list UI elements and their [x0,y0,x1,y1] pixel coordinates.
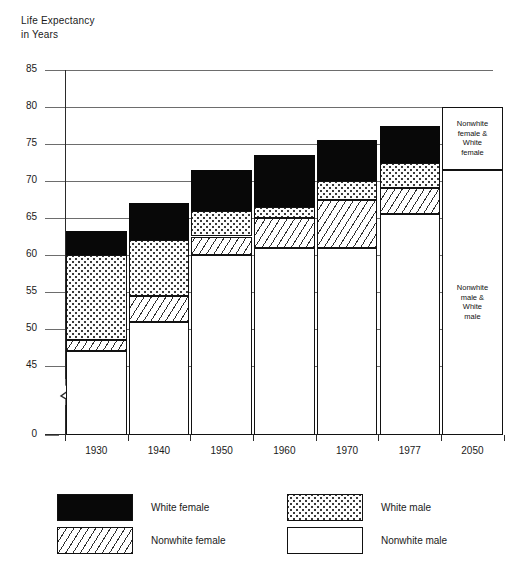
y-tick-0 [45,435,59,436]
legend-swatch-wm [287,494,363,521]
bar-segment-nonwhite-male-1950 [191,255,252,435]
x-tick-1960 [253,435,254,441]
bar-segment-nonwhite-female-1977 [380,188,441,214]
bar-segment-white-male-1970 [317,181,378,200]
y-axis-label-50: 50 [13,322,37,333]
legend-swatch-nwf [57,527,133,554]
y-axis-title: Life Expectancy in Years [21,14,95,42]
bar-2050: Nonwhite female & White femaleNonwhite m… [442,70,503,435]
y-axis-label-60: 60 [13,248,37,259]
legend-item-wm[interactable]: White male [287,494,431,521]
bar-segment-nonwhite-female-1960 [254,218,315,248]
bar-segment-label: Nonwhite female & White female [443,119,502,157]
bar-segment-white-female-1940 [129,203,190,240]
legend-label-wm: White male [381,502,431,513]
x-axis-label-1977: 1977 [380,445,440,456]
bar-segment-projected-male: Nonwhite male & White male [442,170,503,435]
bar-segment-nonwhite-male-1977 [380,214,441,435]
x-tick-1930 [65,435,66,441]
bar-segment-white-female-1950 [191,170,252,211]
bar-segment-nonwhite-male-1930 [66,351,127,435]
bar-segment-white-female-1930 [66,231,127,255]
bar-segment-white-male-1960 [254,207,315,218]
x-axis-label-2050: 2050 [442,445,502,456]
y-axis-label-65: 65 [13,211,37,222]
x-axis-label-1950: 1950 [192,445,252,456]
legend-item-nwf[interactable]: Nonwhite female [57,527,225,554]
x-axis-label-1940: 1940 [129,445,189,456]
y-axis-label-55: 55 [13,285,37,296]
x-axis-label-1930: 1930 [66,445,126,456]
chart-legend: White femaleWhite maleNonwhite femaleNon… [57,494,477,554]
bar-1930 [66,70,127,435]
bar-segment-nonwhite-female-1930 [66,340,127,351]
bar-segment-white-female-1970 [317,140,378,181]
bar-segment-white-female-1977 [380,126,441,163]
legend-label-nwm: Nonwhite male [381,535,447,546]
y-axis-label-70: 70 [13,174,37,185]
x-tick-1970 [316,435,317,441]
legend-item-nwm[interactable]: Nonwhite male [287,527,447,554]
bar-1950 [191,70,252,435]
y-axis-label-75: 75 [13,137,37,148]
legend-swatch-nwm [287,527,363,554]
x-axis-label-1960: 1960 [254,445,314,456]
plot-area: 0455055606570758085193019401950196019701… [45,70,493,435]
bar-segment-white-male-1977 [380,163,441,189]
x-tick-1977 [378,435,379,441]
legend-item-wf[interactable]: White female [57,494,209,521]
bar-segment-white-male-1950 [191,211,252,237]
life-expectancy-chart: Life Expectancy in Years 045505560657075… [0,0,525,574]
bar-1970 [317,70,378,435]
bar-segment-nonwhite-female-1970 [317,200,378,248]
bar-segment-nonwhite-male-1960 [254,248,315,435]
legend-label-nwf: Nonwhite female [151,535,225,546]
bar-segment-nonwhite-male-1970 [317,248,378,435]
x-tick-1950 [190,435,191,441]
bar-segment-white-male-1930 [66,255,127,340]
bar-segment-nonwhite-female-1940 [129,296,190,322]
bar-1977 [380,70,441,435]
bar-segment-white-male-1940 [129,240,190,296]
y-axis-label-80: 80 [13,100,37,111]
bar-segment-projected-female: Nonwhite female & White female [442,107,503,170]
bar-segment-label: Nonwhite male & White male [443,283,502,321]
x-tick-end [504,435,505,441]
bar-1940 [129,70,190,435]
y-axis-label-45: 45 [13,359,37,370]
x-tick-2050 [441,435,442,441]
bar-1960 [254,70,315,435]
bar-segment-nonwhite-male-1940 [129,322,190,435]
y-axis-label-85: 85 [13,63,37,74]
bar-segment-white-female-1960 [254,155,315,207]
x-axis-label-1970: 1970 [317,445,377,456]
bar-segment-nonwhite-female-1950 [191,237,252,256]
x-tick-1940 [128,435,129,441]
y-axis-label-0: 0 [13,428,37,439]
legend-label-wf: White female [151,502,209,513]
legend-swatch-wf [57,494,133,521]
